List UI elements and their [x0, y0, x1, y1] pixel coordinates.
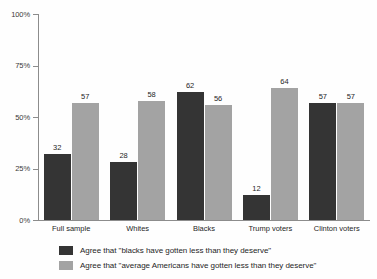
- x-axis-category-label: Whites: [104, 224, 170, 233]
- bar-value-label: 12: [243, 184, 270, 193]
- y-axis-tick-label: 25%: [0, 164, 30, 173]
- y-axis-tick-label: 75%: [0, 61, 30, 70]
- bar-value-label: 32: [44, 143, 71, 152]
- x-axis-category-label: Trump voters: [237, 224, 303, 233]
- bar: [110, 162, 137, 220]
- bar-value-label: 28: [110, 151, 137, 160]
- bar: [44, 154, 71, 220]
- bar-value-label: 56: [205, 94, 232, 103]
- legend-swatch-dark: [59, 246, 73, 255]
- bar-value-label: 57: [309, 92, 336, 101]
- bar: [138, 101, 165, 220]
- y-axis-tick-label: 0%: [0, 216, 30, 225]
- y-axis-tick-label: 50%: [0, 113, 30, 122]
- legend-label-series-0: Agree that "blacks have gotten less than…: [80, 246, 271, 255]
- bar: [205, 105, 232, 220]
- y-axis-tick-label: 100%: [0, 10, 30, 19]
- y-axis-tick-0: [33, 220, 38, 221]
- chart-legend: Agree that "blacks have gotten less than…: [59, 243, 316, 273]
- bar-value-label: 58: [138, 90, 165, 99]
- legend-item-series-1: Agree that "average Americans have gotte…: [59, 258, 316, 273]
- bar: [72, 103, 99, 220]
- bar: [177, 92, 204, 220]
- x-axis-category-label: Blacks: [171, 224, 237, 233]
- bar: [337, 103, 364, 220]
- bar-value-label: 62: [177, 81, 204, 90]
- plot-area: 32572858625612645757: [38, 14, 370, 220]
- bar: [271, 88, 298, 220]
- legend-swatch-gray: [59, 261, 73, 270]
- bar-value-label: 57: [337, 92, 364, 101]
- bar-chart: 100%75%50%25%0% 32572858625612645757 Ful…: [0, 0, 377, 279]
- bar-group: 1264: [243, 14, 298, 220]
- legend-label-series-1: Agree that "average Americans have gotte…: [80, 261, 316, 270]
- bar-group: 5757: [309, 14, 364, 220]
- x-axis-category-label: Clinton voters: [304, 224, 370, 233]
- bar-group: 2858: [110, 14, 165, 220]
- bar-group: 6256: [177, 14, 232, 220]
- x-axis-category-label: Full sample: [38, 224, 104, 233]
- bar: [243, 195, 270, 220]
- bar-value-label: 64: [271, 77, 298, 86]
- bar: [309, 103, 336, 220]
- bar-group: 3257: [44, 14, 99, 220]
- legend-item-series-0: Agree that "blacks have gotten less than…: [59, 243, 316, 258]
- bar-value-label: 57: [72, 92, 99, 101]
- x-axis-line: [38, 220, 370, 221]
